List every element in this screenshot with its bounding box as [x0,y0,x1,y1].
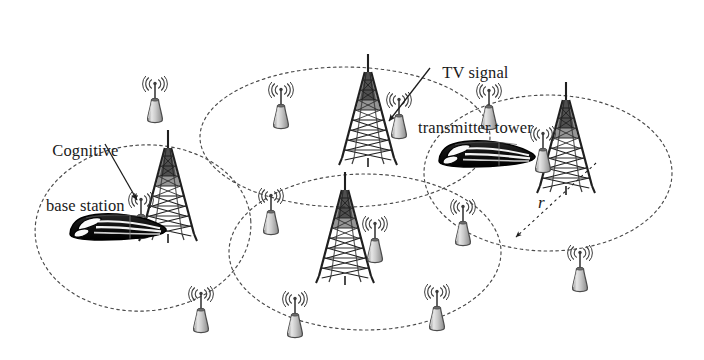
tv-label-line-2: transmitter tower [418,119,533,137]
railway-cognitive-radio-figure: Cognitive base station TV signal transmi… [0,0,704,360]
cognitive-base-station-10 [189,286,214,333]
cognitive-base-station-1 [143,76,168,123]
cognitive-base-station-4 [259,188,284,235]
tv-transmitter-tower-top [339,54,397,167]
cognitive-base-station-8 [531,126,556,173]
cognitive-base-station-5 [387,92,412,139]
cognitive-base-station-12 [425,284,450,331]
radius-symbol-label: r [538,193,545,212]
cognitive-label-line-2: base station [46,197,125,215]
cognitive-base-station-label: Cognitive base station [46,105,125,253]
cognitive-base-station-7 [451,199,476,246]
tv-transmitter-tower-bottom [316,172,374,285]
tv-transmitter-tower-label: TV signal transmitter tower [418,27,533,175]
cognitive-label-line-1: Cognitive [46,142,125,160]
tv-label-line-1: TV signal [418,64,533,82]
cognitive-base-station-11 [283,291,308,338]
cognitive-base-station-2 [269,82,294,129]
cognitive-base-station-13 [568,245,593,292]
tv-transmitter-tower-right [537,82,595,195]
